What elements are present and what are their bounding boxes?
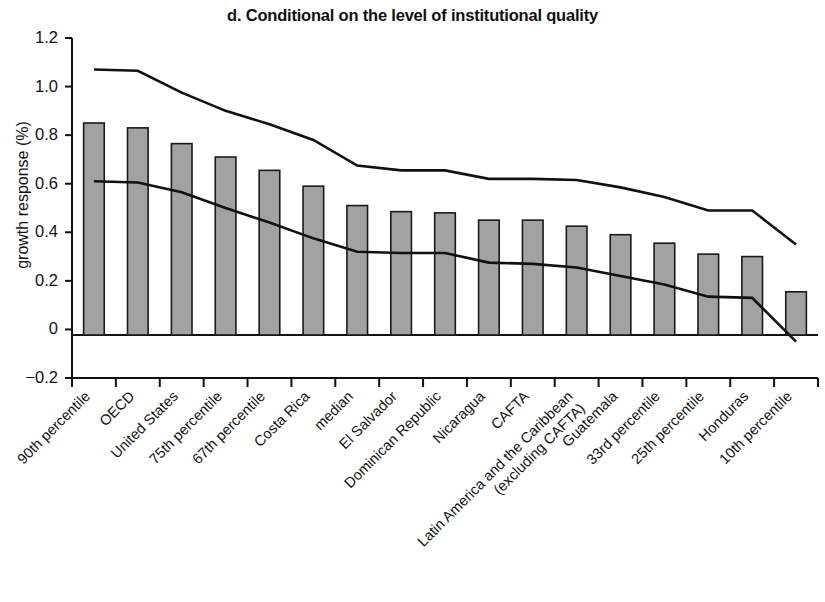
- bar: [215, 157, 236, 335]
- bar: [742, 257, 763, 335]
- plot-area: [0, 0, 825, 602]
- bar-series: [84, 123, 807, 335]
- bar: [391, 212, 412, 335]
- bar: [347, 206, 368, 335]
- bar: [566, 226, 587, 335]
- bar: [786, 292, 807, 335]
- bar: [479, 220, 500, 335]
- bar: [171, 144, 192, 335]
- bar: [303, 186, 324, 335]
- bar: [654, 243, 675, 335]
- bar: [522, 220, 543, 335]
- bar: [610, 235, 631, 335]
- bar: [259, 170, 280, 335]
- chart-figure: d. Conditional on the level of instituti…: [0, 0, 825, 602]
- bar: [435, 213, 456, 335]
- bar: [128, 128, 149, 335]
- bar: [84, 123, 105, 335]
